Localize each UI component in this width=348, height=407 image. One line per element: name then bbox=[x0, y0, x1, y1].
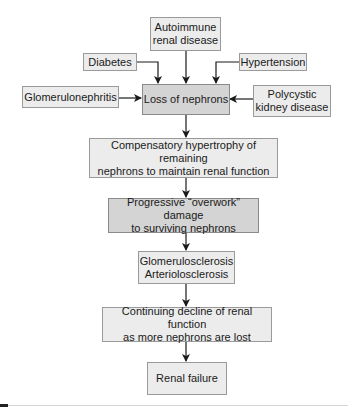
sclerosis-box: Glomerulosclerosis Arteriolosclerosis bbox=[138, 251, 235, 284]
cause-glomerulonephritis-label: Glomerulonephritis bbox=[24, 91, 116, 104]
compensatory-hypertrophy-box: Compensatory hypertrophy of remaining ne… bbox=[89, 138, 278, 178]
arrow-diabetes-to-loss bbox=[137, 62, 158, 83]
arrow-hypertension-to-loss bbox=[216, 62, 239, 83]
progressive-overwork-label: Progressive “overwork” damage to survivi… bbox=[109, 196, 258, 235]
renal-failure-label: Renal failure bbox=[156, 372, 218, 385]
loss-of-nephrons-label: Loss of nephrons bbox=[144, 93, 228, 106]
cause-glomerulonephritis-box: Glomerulonephritis bbox=[22, 86, 119, 108]
progressive-overwork-box: Progressive “overwork” damage to survivi… bbox=[108, 198, 259, 233]
cause-autoimmune-label: Autoimmune renal disease bbox=[153, 21, 218, 47]
cause-polycystic-label: Polycystic kidney disease bbox=[256, 88, 329, 114]
continuing-decline-box: Continuing decline of renal function as … bbox=[102, 307, 272, 342]
cause-hypertension-box: Hypertension bbox=[239, 53, 307, 71]
cause-diabetes-label: Diabetes bbox=[88, 56, 131, 69]
compensatory-hypertrophy-label: Compensatory hypertrophy of remaining ne… bbox=[90, 139, 277, 178]
cause-diabetes-box: Diabetes bbox=[83, 53, 137, 71]
continuing-decline-label: Continuing decline of renal function as … bbox=[103, 305, 271, 344]
cause-hypertension-label: Hypertension bbox=[241, 56, 306, 69]
loss-of-nephrons-box: Loss of nephrons bbox=[142, 84, 230, 115]
sclerosis-label: Glomerulosclerosis Arteriolosclerosis bbox=[140, 255, 234, 281]
cause-autoimmune-box: Autoimmune renal disease bbox=[150, 17, 221, 51]
bottom-rule bbox=[0, 405, 348, 406]
renal-failure-box: Renal failure bbox=[147, 362, 227, 395]
cause-polycystic-box: Polycystic kidney disease bbox=[253, 85, 331, 117]
